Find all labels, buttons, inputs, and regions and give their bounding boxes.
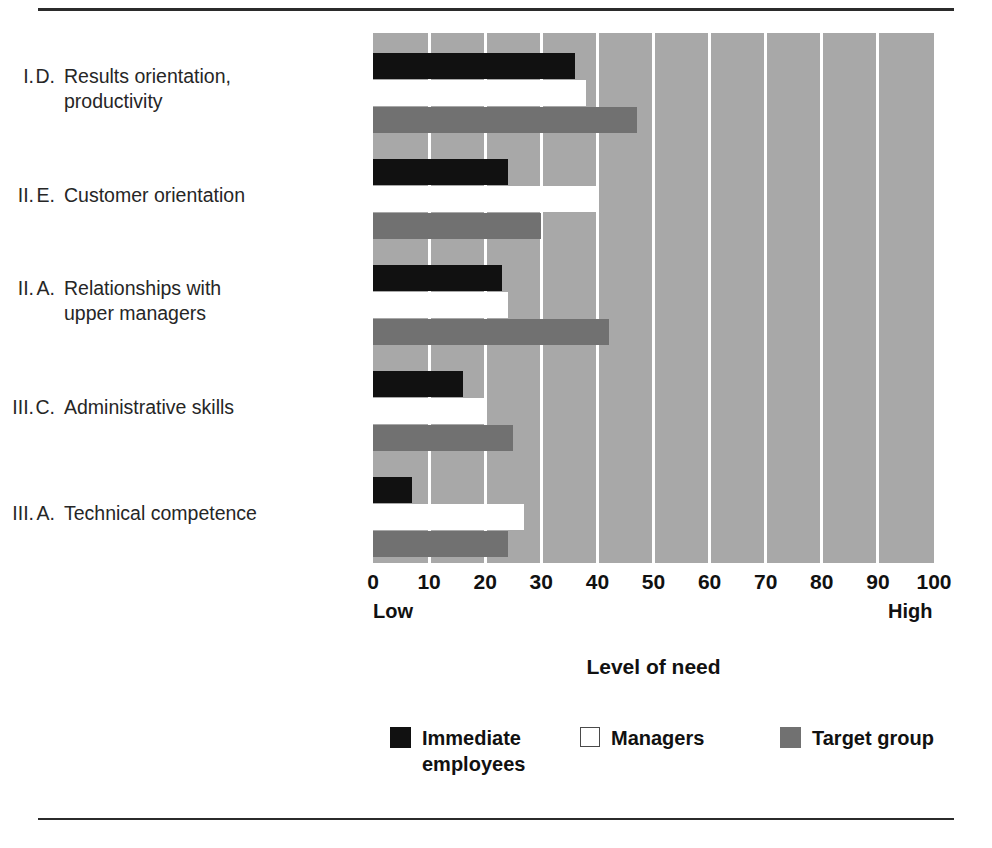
- category-letter: D.: [34, 64, 64, 114]
- category-numeral: III.: [0, 395, 34, 420]
- chart-legend: ImmediateemployeesManagersTarget group: [390, 725, 960, 795]
- chart-figure: I.D.Results orientation,productivityII.E…: [0, 0, 992, 848]
- x-tick-label: 90: [866, 570, 889, 594]
- legend-swatch-icon: [580, 727, 600, 747]
- x-tick-label: 80: [810, 570, 833, 594]
- bar: [373, 107, 637, 133]
- bar: [373, 159, 508, 185]
- category-label: III.C.Administrative skills: [0, 395, 340, 420]
- legend-item: Managers: [580, 725, 704, 751]
- x-tick-label: 30: [530, 570, 553, 594]
- x-tick-label: 60: [698, 570, 721, 594]
- category-numeral: II.: [0, 276, 34, 326]
- legend-swatch-icon: [780, 727, 801, 748]
- bar: [373, 425, 513, 451]
- category-numeral: I.: [0, 64, 34, 114]
- bar: [373, 186, 597, 212]
- bar: [373, 319, 609, 345]
- x-axis-tick-labels: Low High 0102030405060708090100: [373, 570, 973, 600]
- legend-item: Immediateemployees: [390, 725, 525, 777]
- bar: [373, 213, 541, 239]
- bar-groups: [373, 33, 934, 563]
- category-label: II.A.Relationships withupper managers: [0, 276, 340, 326]
- category-text: Customer orientation: [64, 183, 340, 208]
- bar: [373, 80, 586, 106]
- legend-label: Managers: [611, 725, 704, 751]
- category-letter: A.: [34, 276, 64, 326]
- axis-endpoint-low: Low: [373, 600, 413, 623]
- bar: [373, 531, 508, 557]
- bar: [373, 504, 524, 530]
- bar: [373, 398, 485, 424]
- category-numeral: III.: [0, 501, 34, 526]
- category-axis-labels: I.D.Results orientation,productivityII.E…: [0, 33, 360, 563]
- legend-label: Target group: [812, 725, 934, 751]
- category-numeral: II.: [0, 183, 34, 208]
- x-tick-label: 100: [916, 570, 951, 594]
- top-divider-rule: [38, 8, 954, 11]
- legend-swatch-icon: [390, 727, 411, 748]
- category-label: I.D.Results orientation,productivity: [0, 64, 340, 114]
- legend-label: Immediateemployees: [422, 725, 525, 777]
- axis-endpoint-high: High: [888, 600, 932, 623]
- bar-group: [373, 265, 934, 345]
- bar: [373, 371, 463, 397]
- plot-area: [373, 33, 934, 563]
- bar: [373, 265, 502, 291]
- x-tick-label: 70: [754, 570, 777, 594]
- category-text: Results orientation,productivity: [64, 64, 340, 114]
- bar: [373, 292, 508, 318]
- legend-item: Target group: [780, 725, 934, 751]
- x-axis-title: Level of need: [373, 655, 934, 679]
- bar: [373, 53, 575, 79]
- category-text: Technical competence: [64, 501, 340, 526]
- category-letter: A.: [34, 501, 64, 526]
- bar-group: [373, 371, 934, 451]
- category-text: Relationships withupper managers: [64, 276, 340, 326]
- x-tick-label: 10: [417, 570, 440, 594]
- x-tick-label: 50: [642, 570, 665, 594]
- x-tick-label: 0: [367, 570, 379, 594]
- bar-group: [373, 477, 934, 557]
- bottom-divider-rule: [38, 818, 954, 820]
- category-label: III.A.Technical competence: [0, 501, 340, 526]
- x-tick-label: 40: [586, 570, 609, 594]
- bar-group: [373, 159, 934, 239]
- category-text: Administrative skills: [64, 395, 340, 420]
- bar: [373, 477, 412, 503]
- category-letter: E.: [34, 183, 64, 208]
- category-label: II.E.Customer orientation: [0, 183, 340, 208]
- x-tick-label: 20: [474, 570, 497, 594]
- category-letter: C.: [34, 395, 64, 420]
- bar-group: [373, 53, 934, 133]
